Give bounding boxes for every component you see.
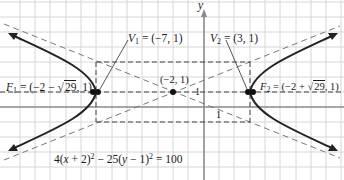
eq-part4: − 1) bbox=[127, 153, 149, 165]
focus1-prefix: = (−2 − bbox=[20, 81, 58, 93]
vertex1-sub: 1 bbox=[135, 37, 139, 46]
vertex2-value: = (3, 1) bbox=[224, 32, 258, 44]
y-axis-label: y bbox=[198, 0, 203, 12]
vertex2-sub: 2 bbox=[217, 37, 221, 46]
eq-part3: − 25( bbox=[95, 153, 123, 165]
center-label: (−2, 1) bbox=[160, 75, 189, 86]
vertex2-name: V bbox=[210, 32, 217, 44]
eq-part5: = 100 bbox=[153, 153, 183, 165]
vertex1-name: V bbox=[128, 32, 135, 44]
focus2-point bbox=[250, 89, 256, 95]
eq-part1: 4( bbox=[54, 153, 64, 165]
focus1-name: F bbox=[6, 81, 13, 93]
focus1-radicand: 29 bbox=[64, 80, 77, 93]
center-point bbox=[170, 89, 176, 95]
vertex1-point bbox=[95, 89, 101, 95]
focus1-label: F1 = (−2 − √29, 1) bbox=[6, 82, 92, 95]
eq-part2: + 2) bbox=[69, 153, 91, 165]
focus2-sub: 2 bbox=[266, 85, 270, 94]
focus2-radicand: 29 bbox=[313, 80, 325, 92]
focus1-suffix: , 1) bbox=[76, 81, 91, 93]
focus2-label: F2 = (−2 + √29, 1) bbox=[260, 82, 339, 94]
vertex1-label: V1 = (−7, 1) bbox=[128, 33, 183, 46]
focus2-prefix: = (−2 + bbox=[273, 81, 307, 92]
tick-label-horizontal-unit: 1 bbox=[216, 110, 221, 120]
vertex2-label: V2 = (3, 1) bbox=[210, 33, 258, 46]
focus1-sub: 1 bbox=[13, 86, 17, 95]
equation-label: 4(x + 2)2 − 25(y − 1)2 = 100 bbox=[54, 153, 183, 166]
tick-label-vertical-unit: 1 bbox=[195, 87, 200, 97]
vertex1-value: = (−7, 1) bbox=[142, 32, 183, 44]
focus2-suffix: , 1) bbox=[325, 81, 339, 92]
